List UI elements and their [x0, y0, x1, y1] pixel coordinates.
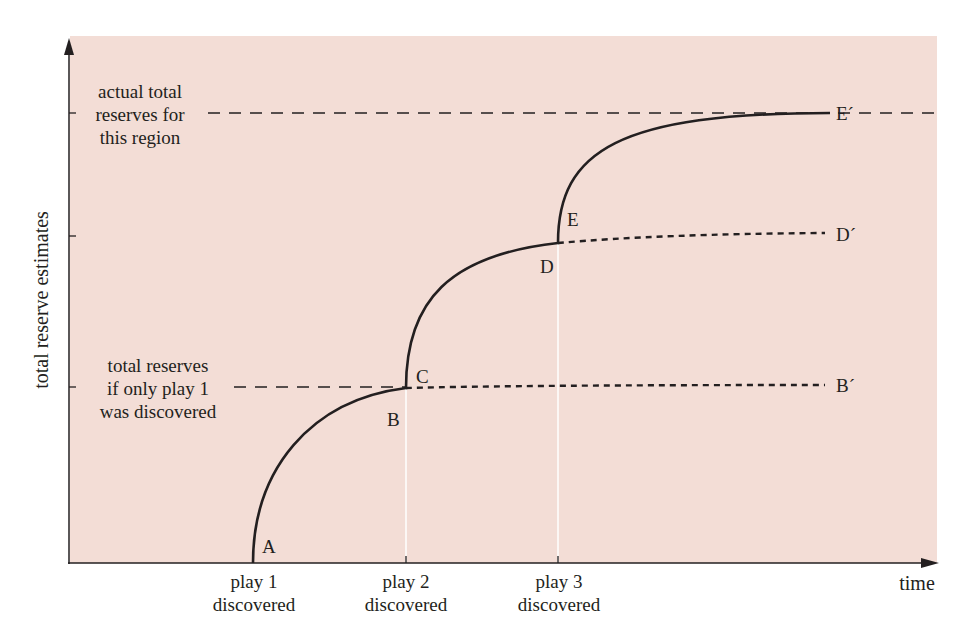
plot-background [70, 36, 937, 563]
y-axis-label: total reserve estimates [30, 211, 52, 389]
annotation-line: actual total [98, 81, 182, 102]
annotation-line: was discovered [100, 401, 217, 422]
tick-line: discovered [365, 594, 448, 615]
point-label-b-prime: B´ [836, 375, 855, 396]
annotation-line: total reserves [108, 355, 209, 376]
tick-line: play 1 [231, 571, 278, 592]
point-label-d-prime: D´ [836, 224, 856, 245]
point-label-e: E [567, 209, 579, 230]
tick-line: play 3 [536, 571, 583, 592]
tick-line: discovered [213, 594, 296, 615]
reserve-growth-diagram: total reserve estimates time actual tota… [0, 0, 969, 636]
x-tick-label-play1: play 1 discovered [213, 571, 296, 615]
annotation-play1-only: total reserves if only play 1 was discov… [100, 355, 217, 422]
annotation-line: reserves for [95, 104, 185, 125]
point-label-d: D [540, 256, 554, 277]
point-label-c: C [416, 366, 429, 387]
x-axis-label: time [899, 572, 935, 594]
tick-line: play 2 [383, 571, 430, 592]
annotation-line: this region [100, 127, 181, 148]
x-tick-label-play3: play 3 discovered [518, 571, 601, 615]
point-label-e-prime: E´ [836, 103, 854, 124]
point-label-a: A [262, 536, 276, 557]
point-label-b: B [387, 409, 400, 430]
annotation-line: if only play 1 [107, 378, 209, 399]
annotation-actual-total: actual total reserves for this region [95, 81, 185, 148]
tick-line: discovered [518, 594, 601, 615]
x-tick-label-play2: play 2 discovered [365, 571, 448, 615]
